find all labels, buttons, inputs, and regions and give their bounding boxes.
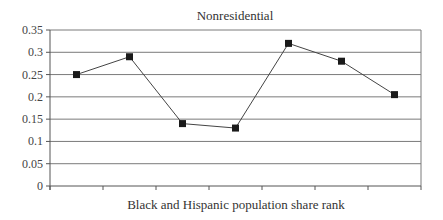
- data-point-marker: [338, 58, 345, 65]
- y-tick-label: 0.2: [28, 90, 43, 104]
- y-tick-label: 0.15: [22, 112, 43, 126]
- y-tick-label: 0.1: [28, 134, 43, 148]
- x-axis: [50, 186, 421, 190]
- y-tick-label: 0.25: [22, 68, 43, 82]
- y-tick-label: 0.05: [22, 157, 43, 171]
- chart-title: Nonresidential: [197, 8, 274, 23]
- data-point-marker: [391, 91, 398, 98]
- gridlines: [50, 30, 421, 186]
- data-point-marker: [73, 71, 80, 78]
- x-axis-label: Black and Hispanic population share rank: [127, 197, 345, 212]
- y-axis: 00.050.10.150.20.250.30.35: [22, 23, 50, 193]
- y-tick-label: 0: [37, 179, 43, 193]
- y-tick-label: 0.35: [22, 23, 43, 37]
- data-point-marker: [126, 53, 133, 60]
- data-point-marker: [285, 40, 292, 47]
- data-series: [73, 40, 398, 132]
- y-tick-label: 0.3: [28, 45, 43, 59]
- series-line: [77, 43, 395, 128]
- chart: Nonresidential 00.050.10.150.20.250.30.3…: [0, 0, 443, 220]
- data-point-marker: [179, 120, 186, 127]
- data-point-marker: [232, 125, 239, 132]
